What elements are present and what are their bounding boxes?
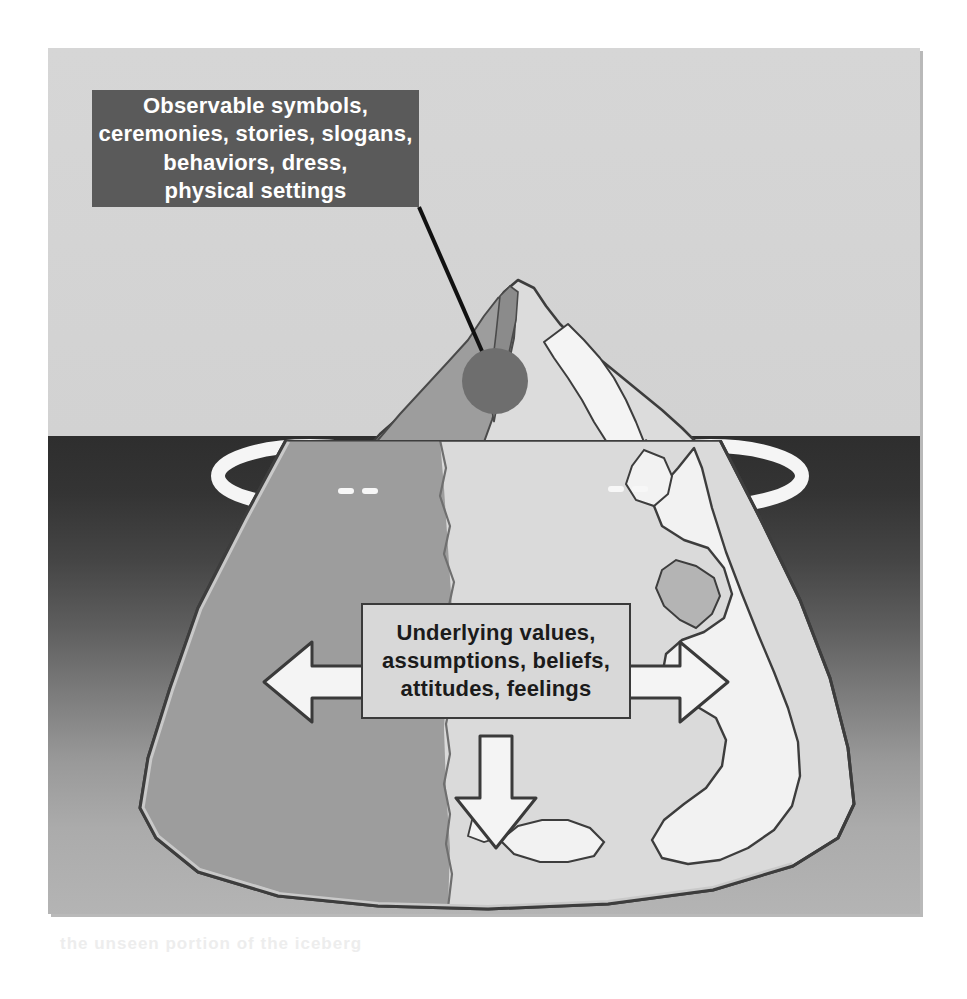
underlying-culture-callout[interactable]: Underlying values, assumptions, beliefs,… [361,603,631,719]
observable-line-3: behaviors, dress, [99,149,413,177]
observable-line-2: ceremonies, stories, slogans, [99,120,413,148]
figure-panel: Observable symbols, ceremonies, stories,… [48,48,920,914]
ghost-text-bottom: the unseen portion of the iceberg [60,934,362,954]
glint-right-b [632,486,648,492]
observable-line-1: Observable symbols, [99,92,413,120]
page-canvas: the unseen portion of the iceberg [0,0,967,999]
observable-line-4: physical settings [99,177,413,205]
underlying-line-2: assumptions, beliefs, [382,647,610,675]
iceberg-tip-marker-dot [462,348,528,414]
observable-culture-callout[interactable]: Observable symbols, ceremonies, stories,… [92,90,419,207]
underlying-line-1: Underlying values, [382,619,610,647]
glint-left-a [338,488,354,494]
glint-right-a [608,486,624,492]
glint-left-b [362,488,378,494]
underlying-line-3: attitudes, feelings [382,675,610,703]
